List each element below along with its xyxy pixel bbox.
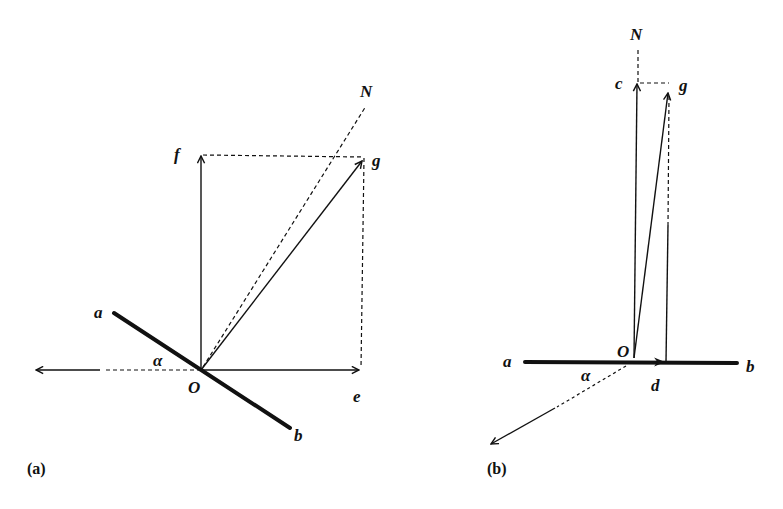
dashed-fg (203, 155, 364, 157)
label-b: b (746, 357, 755, 376)
panel-a: N f g a α O e b (a) (27, 82, 381, 478)
label-e: e (353, 387, 361, 406)
vector-diagram-figure: N f g a α O e b (a) N c g a O α d (0, 0, 783, 509)
label-d: d (651, 376, 660, 395)
label-N: N (359, 82, 373, 101)
normal-ON (203, 106, 366, 367)
dashed-gd (668, 96, 669, 225)
label-O: O (188, 378, 200, 397)
vector-Oc (634, 84, 637, 358)
panel-caption-b: (b) (487, 460, 507, 478)
vector-Og (634, 93, 668, 358)
label-c: c (615, 74, 623, 93)
label-g: g (678, 76, 688, 95)
label-O: O (617, 342, 629, 361)
line-gd-lower (666, 225, 668, 362)
label-a: a (94, 303, 103, 322)
dashed-ge (361, 158, 364, 368)
label-N: N (629, 25, 643, 44)
vector-Og (201, 161, 362, 370)
surface-line-ab (525, 362, 737, 363)
oblique-arrow-dashed (557, 366, 626, 407)
panel-caption-a: (a) (27, 460, 46, 478)
label-alpha: α (581, 366, 591, 385)
panel-b: N c g a O α d b (b) (487, 25, 755, 478)
label-a: a (503, 352, 512, 371)
label-b: b (294, 426, 303, 445)
oblique-arrow-solid (491, 408, 555, 444)
label-f: f (174, 145, 182, 164)
label-g: g (371, 151, 381, 170)
label-alpha: α (153, 351, 163, 370)
